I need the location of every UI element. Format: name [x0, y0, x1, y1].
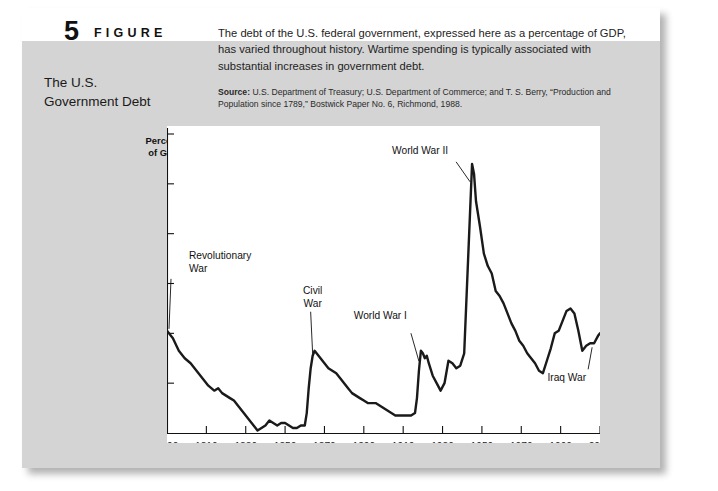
- x-tick-label: 2010: [589, 441, 600, 443]
- chart-series-layer: [167, 164, 600, 431]
- x-tick-label: 1870: [313, 441, 336, 443]
- x-tick-label: 1850: [274, 441, 297, 443]
- annotation-leader-line: [456, 162, 470, 182]
- x-tick-label: 1970: [510, 441, 533, 443]
- figure-title-line-2: Government Debt: [44, 93, 214, 112]
- x-tick-label: 1930: [431, 441, 454, 443]
- annotation-leader-line: [311, 312, 313, 354]
- annotation-leader-line: [169, 279, 171, 329]
- figure-description: The debt of the U.S. federal government,…: [218, 25, 643, 74]
- annotation-label-iraq-war: Iraq War: [547, 372, 586, 383]
- chart-axes: [167, 128, 600, 434]
- annotation-label-civil-war: Civil: [303, 285, 322, 296]
- x-axis-ticks: 1790181018301850187018901910193019501970…: [167, 426, 600, 443]
- x-tick-label: 1810: [195, 441, 218, 443]
- x-tick-label: 1790: [167, 441, 179, 443]
- chart-annotations-layer: RevolutionaryWarCivilWarWorld War IWorld…: [169, 145, 592, 383]
- chart-plot-panel: 020406080100120% 17901810183018501870189…: [167, 126, 600, 443]
- annotation-label-revolutionary-war: War: [189, 263, 208, 274]
- x-tick-label: 1890: [352, 441, 375, 443]
- figure-panel: 5 FIGURE The U.S. Government Debt The de…: [22, 8, 660, 468]
- source-label: Source:: [218, 87, 250, 97]
- figure-word-label: FIGURE: [94, 26, 166, 40]
- x-tick-label: 1950: [471, 441, 494, 443]
- annotation-leader-line: [588, 347, 592, 369]
- annotation-label-world-war-i: World War I: [354, 310, 407, 321]
- figure-title-line-1: The U.S.: [44, 74, 214, 93]
- figure-number: 5: [64, 18, 79, 45]
- figure-source: Source: U.S. Department of Treasury; U.S…: [218, 86, 643, 110]
- annotation-label-civil-war: War: [303, 298, 322, 309]
- annotation-label-world-war-ii: World War II: [392, 145, 448, 156]
- x-tick-label: 1830: [234, 441, 257, 443]
- x-tick-label: 1990: [549, 441, 572, 443]
- debt-gdp-line-chart: 020406080100120% 17901810183018501870189…: [167, 126, 600, 443]
- figure-title: The U.S. Government Debt: [44, 74, 214, 111]
- annotation-label-revolutionary-war: Revolutionary: [189, 250, 252, 261]
- x-tick-label: 1910: [392, 441, 415, 443]
- source-text: U.S. Department of Treasury; U.S. Depart…: [218, 87, 611, 109]
- annotation-leader-line: [411, 333, 419, 361]
- debt-line-series: [167, 164, 600, 431]
